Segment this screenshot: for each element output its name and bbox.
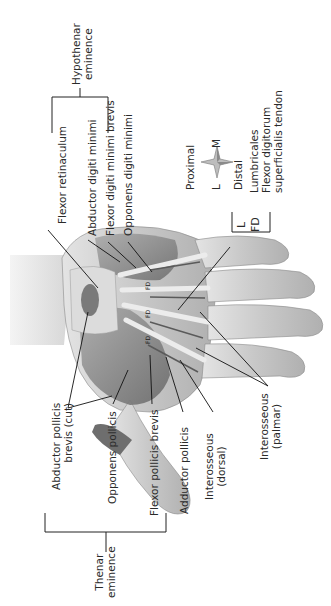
svg-text:FD: FD	[144, 310, 151, 318]
forearm	[10, 255, 68, 345]
svg-text:FD: FD	[144, 282, 151, 290]
thenar-line2: eminence	[105, 546, 117, 598]
legend-L: L	[236, 222, 248, 228]
interosseous-palmar-line1: Interosseous	[258, 393, 270, 460]
compass-icon	[201, 146, 233, 178]
compass-lateral-label: L	[210, 184, 222, 190]
svg-text:FD: FD	[144, 336, 151, 344]
opponens-digiti-minimi-label: Opponens digiti minimi	[122, 114, 134, 236]
interosseous-palmar-label: Interosseous (palmar)	[258, 393, 282, 460]
hypothenar-line1: Hypothenar	[70, 23, 82, 85]
abductor-digiti-minimi-label: Abductor digiti minimi	[86, 119, 98, 236]
flexor-retinaculum-label: Flexor retinaculum	[56, 126, 68, 224]
thenar-line1: Thenar	[93, 546, 105, 598]
opponens-pollicis-label: Opponens pollicis	[106, 411, 118, 504]
hypothenar-eminence-label: Hypothenar eminence	[70, 23, 94, 85]
hypothenar-line2: eminence	[82, 23, 94, 85]
flexor-digiti-minimi-brevis-label: Flexor digiti minimi brevis	[104, 100, 116, 236]
finger-little	[195, 236, 289, 268]
legend-FD: FD	[250, 217, 262, 232]
lumbricales-label: Lumbricales	[248, 129, 260, 193]
finger-middle	[208, 305, 323, 340]
compass-distal-label: Distal	[232, 160, 244, 190]
finger-ring	[205, 269, 315, 302]
abductor-pollicis-line2: brevis (cut)	[62, 403, 74, 490]
abductor-pollicis-brevis-label: Abductor pollicis brevis (cut)	[50, 403, 74, 490]
interosseous-dorsal-label: Interosseous (dorsal)	[203, 433, 227, 500]
compass-medial-label: M	[210, 139, 222, 148]
retinaculum-cut	[81, 284, 99, 316]
thenar-eminence-label: Thenar eminence	[93, 546, 117, 598]
adductor-pollicis-label: Adductor pollicis	[178, 427, 190, 514]
flexor-digitorum-label: Flexor digitorum	[260, 107, 272, 193]
interosseous-palmar-line2: (palmar)	[270, 393, 282, 460]
flexor-pollicis-brevis-label: Flexor pollicis brevis	[148, 410, 160, 516]
abductor-pollicis-line1: Abductor pollicis	[50, 403, 62, 490]
superficialis-tendon-label: superficialis tendon	[272, 90, 284, 193]
compass-proximal-label: Proximal	[184, 145, 196, 190]
finger-index	[202, 344, 305, 378]
interosseous-dorsal-line2: (dorsal)	[215, 433, 227, 500]
interosseous-dorsal-line1: Interosseous	[203, 433, 215, 500]
